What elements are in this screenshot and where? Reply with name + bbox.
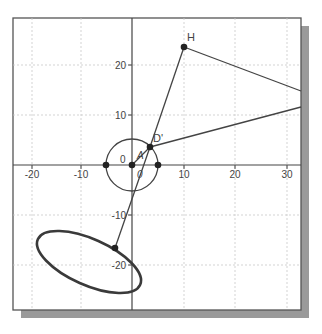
- point-left[interactable]: [103, 162, 110, 169]
- point-d-prime[interactable]: [147, 144, 154, 151]
- y-tick-label: -20: [112, 260, 127, 271]
- y-tick-label: 20: [115, 60, 127, 71]
- x-tick-label: 20: [229, 169, 241, 180]
- label-h: H: [187, 31, 195, 43]
- x-tick-label: 10: [178, 169, 190, 180]
- x-tick-label: 30: [281, 169, 293, 180]
- point-lower[interactable]: [112, 245, 119, 252]
- label-origin: 0: [120, 154, 126, 165]
- label-zero-bottom: 0: [137, 169, 143, 180]
- y-tick-label: 10: [115, 110, 127, 121]
- x-tick-label: -10: [74, 169, 89, 180]
- geometry-canvas[interactable]: -20 -10 10 20 30 20 10 -10 -20: [0, 0, 322, 334]
- point-origin[interactable]: [129, 162, 136, 169]
- y-tick-label: -10: [112, 210, 127, 221]
- point-right[interactable]: [155, 162, 162, 169]
- point-h[interactable]: [181, 44, 188, 51]
- x-tick-label: -20: [25, 169, 40, 180]
- label-a: A: [136, 150, 144, 161]
- label-d-prime: D': [153, 132, 163, 144]
